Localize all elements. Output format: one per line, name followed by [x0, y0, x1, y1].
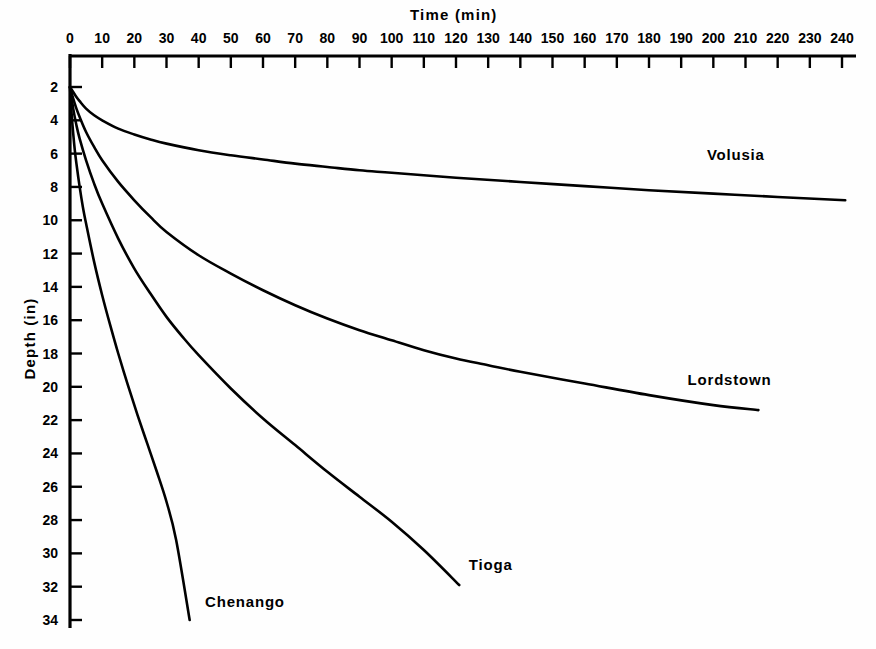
- x-tick-label: 20: [127, 30, 143, 46]
- x-tick-label: 110: [413, 30, 436, 46]
- x-tick-label: 240: [830, 30, 853, 46]
- x-tick-label: 30: [159, 30, 175, 46]
- x-tick-label: 80: [320, 30, 336, 46]
- y-tick-label: 16: [16, 312, 58, 328]
- y-tick-label: 34: [16, 612, 58, 628]
- series-curve-volusia: [70, 87, 845, 200]
- y-tick-label: 8: [16, 179, 58, 195]
- x-tick-label: 40: [191, 30, 207, 46]
- x-tick-label: 220: [766, 30, 789, 46]
- y-tick-label: 32: [16, 579, 58, 595]
- y-tick-label: 12: [16, 246, 58, 262]
- y-tick-label: 28: [16, 512, 58, 528]
- x-tick-label: 150: [541, 30, 564, 46]
- x-tick-label: 180: [637, 30, 660, 46]
- x-tick-label: 170: [605, 30, 628, 46]
- series-label-tioga: Tioga: [469, 556, 513, 573]
- x-tick-label: 90: [352, 30, 368, 46]
- y-tick-label: 10: [16, 212, 58, 228]
- y-tick-label: 4: [16, 112, 58, 128]
- x-axis-title: Time (min): [410, 6, 498, 23]
- x-tick-label: 200: [702, 30, 725, 46]
- x-tick-label: 0: [66, 30, 74, 46]
- x-tick-label: 160: [573, 30, 596, 46]
- chart-series-curves: [70, 87, 845, 620]
- x-tick-label: 60: [255, 30, 271, 46]
- x-tick-label: 10: [94, 30, 110, 46]
- y-tick-label: 18: [16, 346, 58, 362]
- y-tick-label: 26: [16, 479, 58, 495]
- series-curve-lordstown: [70, 87, 758, 410]
- y-tick-label: 24: [16, 445, 58, 461]
- x-tick-label: 190: [669, 30, 692, 46]
- y-tick-label: 22: [16, 412, 58, 428]
- x-tick-label: 130: [476, 30, 499, 46]
- series-curve-tioga: [70, 87, 459, 585]
- series-label-volusia: Volusia: [707, 146, 765, 163]
- chart-axes: [70, 54, 856, 628]
- chart-figure: Time (min) Depth (in) 010203040506070809…: [0, 0, 876, 649]
- y-tick-label: 2: [16, 79, 58, 95]
- chart-plot-area: [0, 0, 876, 649]
- y-tick-label: 6: [16, 146, 58, 162]
- series-label-lordstown: Lordstown: [688, 371, 772, 388]
- series-label-chenango: Chenango: [205, 593, 285, 610]
- x-tick-label: 50: [223, 30, 239, 46]
- x-tick-label: 230: [798, 30, 821, 46]
- x-tick-label: 70: [287, 30, 303, 46]
- x-tick-label: 100: [380, 30, 403, 46]
- x-tick-label: 120: [444, 30, 467, 46]
- x-tick-label: 140: [509, 30, 532, 46]
- x-tick-label: 210: [734, 30, 757, 46]
- y-tick-label: 14: [16, 279, 58, 295]
- y-tick-label: 20: [16, 379, 58, 395]
- y-tick-label: 30: [16, 545, 58, 561]
